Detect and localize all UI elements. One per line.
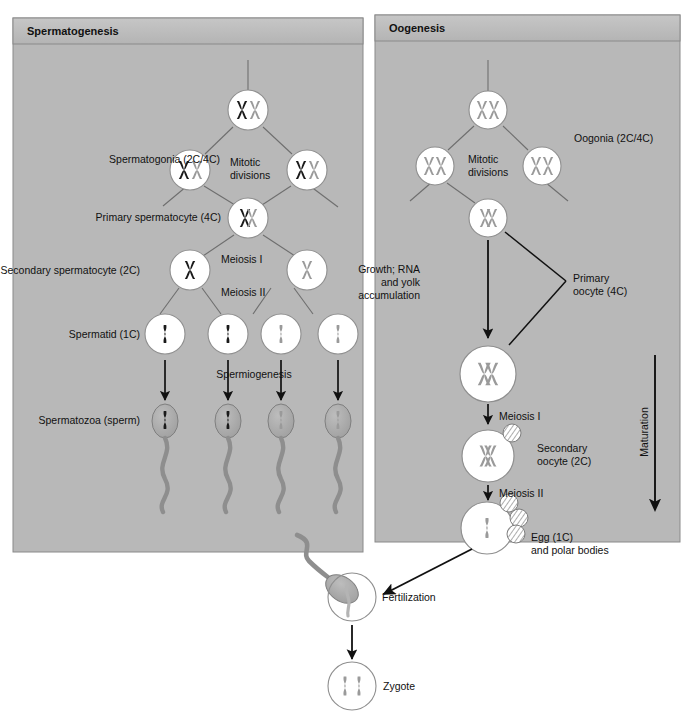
label-zygote: Zygote	[383, 680, 415, 692]
cell-spermatogonium-right	[287, 150, 327, 190]
label-spermatogonia: Spermatogonia (2C/4C)	[109, 153, 220, 165]
cell-spermatid-4	[318, 314, 358, 354]
label-primary-spermatocyte: Primary spermatocyte (4C)	[96, 211, 221, 223]
polar-body-icon	[503, 424, 521, 442]
cell-spermatid-1	[145, 314, 185, 354]
figure-canvas: Spermatogenesis Oogenesis	[0, 0, 693, 724]
label-mitotic-divisions-oo-line1: Mitotic	[468, 153, 498, 165]
panel-title-oogenesis: Oogenesis	[389, 22, 445, 34]
label-primary-oocyte-line1: Primary	[573, 272, 610, 284]
egg-to-fertilization-arrow	[384, 549, 472, 594]
label-secondary-spermatocyte: Secondary spermatocyte (2C)	[1, 264, 140, 276]
gametogenesis-diagram: Spermatogenesis Oogenesis	[0, 0, 693, 724]
label-spermatid: Spermatid (1C)	[69, 328, 140, 340]
label-mitotic-divisions-line1: Mitotic	[230, 156, 260, 168]
label-meiosis-ii-sperm: Meiosis II	[221, 286, 265, 298]
cell-oogonium-left	[416, 147, 454, 185]
label-fertilization: Fertilization	[382, 591, 436, 603]
panel-title-spermatogenesis: Spermatogenesis	[27, 25, 119, 37]
panel-oogenesis: Oogenesis	[375, 15, 680, 542]
label-meiosis-i-sperm: Meiosis I	[221, 253, 262, 265]
polar-body-icon	[507, 525, 525, 543]
polar-body-icon	[510, 509, 528, 527]
label-spermiogenesis: Spermiogenesis	[216, 368, 291, 380]
cell-primary-oocyte-small	[469, 199, 507, 237]
cell-primary-oocyte-grown	[460, 346, 516, 402]
label-spermatozoa: Spermatozoa (sperm)	[38, 414, 140, 426]
cell-oogonium-top	[469, 91, 507, 129]
cell-spermatogonium-top	[228, 90, 268, 130]
cell-oogonium-right	[523, 147, 561, 185]
cell-secondary-spermatocyte-left	[170, 250, 210, 290]
label-secondary-oocyte-line2: oocyte (2C)	[537, 455, 591, 467]
label-meiosis-ii-oo: Meiosis II	[499, 487, 543, 499]
label-oogonia: Oogonia (2C/4C)	[574, 132, 653, 144]
label-maturation: Maturation	[638, 407, 650, 457]
label-mitotic-divisions-line2: divisions	[230, 169, 270, 181]
cell-spermatid-3	[261, 314, 301, 354]
cell-primary-spermatocyte	[228, 198, 268, 238]
label-growth-line2: and yolk	[381, 276, 421, 288]
label-primary-oocyte-line2: oocyte (4C)	[573, 285, 627, 297]
label-meiosis-i-oo: Meiosis I	[499, 410, 540, 422]
cell-spermatid-2	[208, 314, 248, 354]
label-egg-line1: Egg (1C)	[531, 531, 573, 543]
cell-secondary-spermatocyte-right	[287, 250, 327, 290]
label-egg-line2: and polar bodies	[531, 544, 609, 556]
label-mitotic-divisions-oo-line2: divisions	[468, 166, 508, 178]
label-growth-line3: accumulation	[358, 289, 420, 301]
cell-zygote	[328, 662, 376, 710]
label-secondary-oocyte-line1: Secondary	[537, 442, 588, 454]
label-growth-line1: Growth; RNA	[358, 263, 420, 275]
